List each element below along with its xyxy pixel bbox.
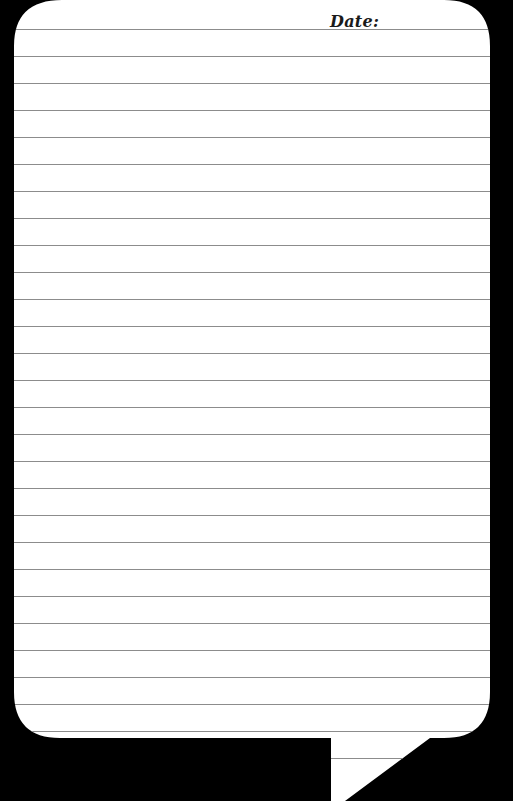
speech-bubble-shape xyxy=(0,0,513,801)
speech-bubble-note: Date: xyxy=(0,0,513,801)
date-label: Date: xyxy=(330,12,379,31)
paper-area xyxy=(14,0,490,801)
